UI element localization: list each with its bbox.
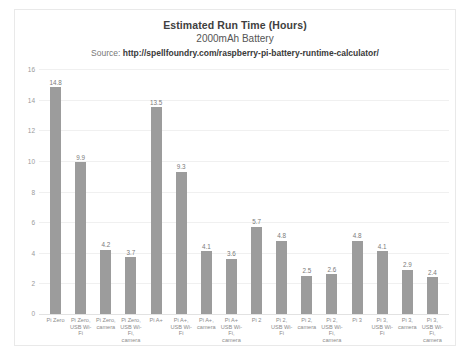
bar[interactable] bbox=[326, 274, 337, 314]
bar-slot[interactable]: 4.8 bbox=[345, 69, 370, 314]
bar-series: 14.89.94.23.713.59.34.13.65.74.82.52.64.… bbox=[39, 69, 449, 314]
bar-value-label: 5.7 bbox=[252, 218, 261, 225]
bar[interactable] bbox=[276, 241, 287, 315]
bar[interactable] bbox=[377, 251, 388, 314]
bar-value-label: 9.3 bbox=[177, 163, 186, 170]
bar-value-label: 4.1 bbox=[378, 243, 387, 250]
x-axis-label: Pi Zero, USB Wi-Fi, camera bbox=[118, 317, 143, 343]
y-axis-tick: 8 bbox=[17, 188, 35, 195]
bar-value-label: 2.6 bbox=[328, 266, 337, 273]
bar-value-label: 2.4 bbox=[428, 269, 437, 276]
bar-value-label: 2.9 bbox=[403, 261, 412, 268]
page-title: Estimated Run Time (Hours) bbox=[15, 18, 455, 32]
x-axis-label: Pi 3 bbox=[345, 317, 370, 343]
y-axis-tick: 16 bbox=[17, 66, 35, 73]
bar-value-label: 4.1 bbox=[202, 243, 211, 250]
bar-value-label: 13.5 bbox=[150, 99, 162, 106]
source-label: Source: bbox=[91, 48, 120, 58]
bar-slot[interactable]: 5.7 bbox=[244, 69, 269, 314]
bar-slot[interactable]: 4.8 bbox=[269, 69, 294, 314]
bar-value-label: 9.9 bbox=[76, 154, 85, 161]
bar-slot[interactable]: 9.9 bbox=[68, 69, 93, 314]
bar[interactable] bbox=[201, 251, 212, 314]
chart-source: Source: http://spellfoundry.com/raspberr… bbox=[15, 47, 455, 60]
bar-value-label: 3.7 bbox=[127, 249, 136, 256]
bar[interactable] bbox=[251, 227, 262, 314]
y-axis-tick: 10 bbox=[17, 157, 35, 164]
y-axis-tick: 14 bbox=[17, 96, 35, 103]
x-axis-label: Pi 2, camera bbox=[294, 317, 319, 343]
x-axis-label: Pi Zero, camera bbox=[93, 317, 118, 343]
bar-slot[interactable]: 3.6 bbox=[219, 69, 244, 314]
bar-slot[interactable]: 13.5 bbox=[144, 69, 169, 314]
bar-slot[interactable]: 3.7 bbox=[118, 69, 143, 314]
bar[interactable] bbox=[301, 276, 312, 314]
bar-slot[interactable]: 2.6 bbox=[319, 69, 344, 314]
x-axis-label: Pi A+, camera bbox=[194, 317, 219, 343]
bar-value-label: 14.8 bbox=[49, 79, 61, 86]
bar-slot[interactable]: 2.4 bbox=[420, 69, 445, 314]
bar[interactable] bbox=[427, 277, 438, 314]
bar[interactable] bbox=[352, 241, 363, 315]
y-axis-tick-zero: 0 bbox=[17, 310, 35, 317]
x-axis-label: Pi Zero, USB Wi-Fi bbox=[68, 317, 93, 343]
bar[interactable] bbox=[100, 250, 111, 314]
x-axis-label: Pi 3, USB Wi-Fi, camera bbox=[420, 317, 445, 343]
x-axis-label: Pi A+ USB Wi-Fi, camera bbox=[219, 317, 244, 343]
plot-area: 246810121416 14.89.94.23.713.59.34.13.65… bbox=[39, 69, 449, 314]
x-axis-label: Pi Zero bbox=[43, 317, 68, 343]
bar-slot[interactable]: 9.3 bbox=[169, 69, 194, 314]
bar-value-label: 2.5 bbox=[302, 267, 311, 274]
bar-slot[interactable]: 4.1 bbox=[370, 69, 395, 314]
x-axis-labels: Pi ZeroPi Zero, USB Wi-FiPi Zero, camera… bbox=[39, 317, 449, 343]
x-axis-label: Pi A+ bbox=[144, 317, 169, 343]
bar-value-label: 3.6 bbox=[227, 250, 236, 257]
bar[interactable] bbox=[125, 257, 136, 314]
bar-slot[interactable]: 14.8 bbox=[43, 69, 68, 314]
bar-slot[interactable]: 2.5 bbox=[294, 69, 319, 314]
bar[interactable] bbox=[151, 107, 162, 314]
x-axis-label: Pi 2, USB Wi-Fi bbox=[269, 317, 294, 343]
x-axis-label: Pi 2, USB Wi-Fi, camera bbox=[319, 317, 344, 343]
bar-value-label: 4.8 bbox=[353, 232, 362, 239]
bar-slot[interactable]: 4.1 bbox=[194, 69, 219, 314]
y-axis-tick: 6 bbox=[17, 219, 35, 226]
y-axis-tick: 12 bbox=[17, 127, 35, 134]
chart-subtitle: 2000mAh Battery bbox=[15, 32, 455, 46]
x-axis-label: Pi 3, camera bbox=[395, 317, 420, 343]
bar[interactable] bbox=[176, 172, 187, 314]
chart-card: Estimated Run Time (Hours) 2000mAh Batte… bbox=[14, 9, 456, 346]
bar-value-label: 4.2 bbox=[101, 241, 110, 248]
x-axis-label: Pi 3, USB Wi-Fi bbox=[370, 317, 395, 343]
bar[interactable] bbox=[75, 162, 86, 314]
bar-slot[interactable]: 4.2 bbox=[93, 69, 118, 314]
x-axis-label: Pi 2 bbox=[244, 317, 269, 343]
bar[interactable] bbox=[226, 259, 237, 314]
y-axis-tick: 4 bbox=[17, 249, 35, 256]
y-axis-tick: 2 bbox=[17, 280, 35, 287]
bar-value-label: 4.8 bbox=[277, 232, 286, 239]
bar[interactable] bbox=[50, 87, 61, 314]
x-axis-label: Pi A+, USB Wi-Fi bbox=[169, 317, 194, 343]
bar[interactable] bbox=[402, 270, 413, 314]
bar-slot[interactable]: 2.9 bbox=[395, 69, 420, 314]
x-axis-line bbox=[39, 314, 449, 315]
source-url: http://spellfoundry.com/raspberry-pi-bat… bbox=[123, 48, 379, 58]
chart-title-block: Estimated Run Time (Hours) 2000mAh Batte… bbox=[15, 18, 455, 60]
